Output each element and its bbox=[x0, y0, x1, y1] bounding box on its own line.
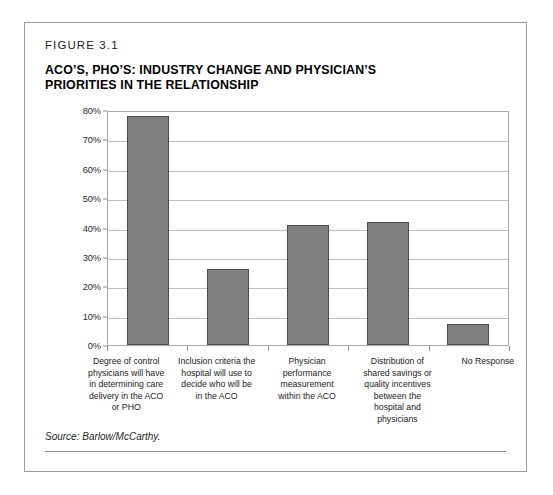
x-axis-category-label-line: Degree of control bbox=[84, 356, 168, 368]
x-axis-category-label-line: between the bbox=[355, 391, 439, 403]
x-axis-category-label-line: or PHO bbox=[84, 402, 168, 414]
chart-plot-wrapper: 80%70%60%50%40%30%20%10%0% bbox=[77, 111, 509, 346]
x-axis-category-label: Inclusion criteria thehospital will use … bbox=[171, 356, 261, 426]
x-axis-tick-mark bbox=[268, 346, 269, 351]
x-axis-category-label-line: No Response bbox=[446, 356, 530, 368]
y-axis-tick-label: 50% bbox=[83, 194, 101, 204]
bar bbox=[447, 324, 489, 345]
x-axis-category-label-line: measurement bbox=[265, 379, 349, 391]
bar-slot bbox=[268, 112, 348, 345]
y-axis-tick-label: 10% bbox=[83, 312, 101, 322]
bar-slot bbox=[348, 112, 428, 345]
x-axis-category-label-line: shared savings or bbox=[355, 368, 439, 380]
x-axis-labels: Degree of controlphysicians will havein … bbox=[81, 356, 533, 426]
x-axis-tick-mark bbox=[187, 346, 188, 351]
bar-slot bbox=[188, 112, 268, 345]
y-axis-tick-label: 80% bbox=[83, 106, 101, 116]
x-axis-category-label-line: in the ACO bbox=[174, 391, 258, 403]
plot-area bbox=[107, 111, 509, 346]
x-axis-category-label-line: Inclusion criteria the bbox=[174, 356, 258, 368]
figure-title-line-2: PRIORITIES IN THE RELATIONSHIP bbox=[45, 78, 495, 93]
x-axis-tick-mark bbox=[107, 346, 108, 351]
x-axis-category-label-line: in determining care bbox=[84, 379, 168, 391]
x-axis-category-label-line: hospital will use to bbox=[174, 368, 258, 380]
y-axis: 80%70%60%50%40%30%20%10%0% bbox=[77, 111, 107, 346]
x-axis-category-label-line: delivery in the ACO bbox=[84, 391, 168, 403]
x-axis-category-label: Physicianperformancemeasurementwithin th… bbox=[262, 356, 352, 426]
x-axis-tick-mark bbox=[509, 346, 510, 351]
x-axis-category-label-line: within the ACO bbox=[265, 391, 349, 403]
x-axis-category-label-line: physicians will have bbox=[84, 368, 168, 380]
footer-divider bbox=[45, 451, 506, 452]
x-axis-category-label: No Response bbox=[443, 356, 533, 426]
bar bbox=[367, 222, 409, 345]
x-axis-ticks bbox=[107, 346, 509, 352]
bars-group bbox=[108, 112, 508, 345]
figure-number-label: FIGURE 3.1 bbox=[45, 39, 119, 51]
figure-frame: FIGURE 3.1 ACO’S, PHO’S: INDUSTRY CHANGE… bbox=[24, 22, 527, 472]
y-axis-tick-label: 0% bbox=[88, 341, 101, 351]
bar-slot bbox=[428, 112, 508, 345]
y-axis-tick-label: 30% bbox=[83, 253, 101, 263]
bar bbox=[287, 225, 329, 345]
x-axis-category-label-line: Physician bbox=[265, 356, 349, 368]
y-axis-tick-label: 60% bbox=[83, 165, 101, 175]
x-axis-category-label-line: decide who will be bbox=[174, 379, 258, 391]
x-axis-category-label-line: quality incentives bbox=[355, 379, 439, 391]
figure-title-line-1: ACO’S, PHO’S: INDUSTRY CHANGE AND PHYSIC… bbox=[45, 63, 495, 78]
y-axis-tick-label: 20% bbox=[83, 282, 101, 292]
x-axis-category-label-line: physicians bbox=[355, 414, 439, 426]
bar bbox=[207, 269, 249, 345]
x-axis-tick-mark bbox=[348, 346, 349, 351]
x-axis-category-label: Distribution ofshared savings orquality … bbox=[352, 356, 442, 426]
x-axis-category-label: Degree of controlphysicians will havein … bbox=[81, 356, 171, 426]
bar-slot bbox=[108, 112, 188, 345]
x-axis-category-label-line: Distribution of bbox=[355, 356, 439, 368]
figure-title: ACO’S, PHO’S: INDUSTRY CHANGE AND PHYSIC… bbox=[45, 63, 495, 92]
source-note: Source: Barlow/McCarthy. bbox=[45, 431, 160, 442]
x-axis-category-label-line: hospital and bbox=[355, 402, 439, 414]
y-axis-tick-label: 40% bbox=[83, 224, 101, 234]
bar bbox=[127, 116, 169, 345]
y-axis-tick-label: 70% bbox=[83, 135, 101, 145]
x-axis-tick-mark bbox=[429, 346, 430, 351]
x-axis-category-label-line: performance bbox=[265, 368, 349, 380]
